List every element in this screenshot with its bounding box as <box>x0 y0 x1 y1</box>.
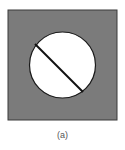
white-circle <box>30 32 96 98</box>
diagram-canvas <box>0 0 125 150</box>
figure: (a) <box>0 0 125 150</box>
figure-caption: (a) <box>0 130 125 140</box>
